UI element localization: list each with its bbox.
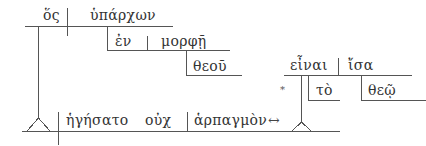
word-negation: οὐχ [145, 112, 171, 128]
subject-pedestal-left [27, 118, 39, 131]
word-prep-object: μορφῇ [161, 33, 206, 49]
word-genitive: θεοῦ [193, 58, 227, 74]
word-infinitive: εἶναι [290, 57, 328, 73]
word-main-verb: ἡγήσατο [66, 112, 128, 128]
infinitive-pedestal-left [292, 122, 302, 131]
subject-pedestal-right [39, 118, 51, 131]
word-object: ἁρπαγμὸν [194, 112, 267, 128]
word-participle: ὑπάρχων [90, 7, 156, 23]
double-arrow-icon: ↔ [268, 112, 280, 128]
word-preposition: ἐν [115, 33, 132, 49]
word-article: τὸ [316, 82, 333, 98]
ellipsis-marker: * [280, 85, 285, 95]
infinitive-pedestal-right [302, 122, 312, 131]
word-subject: ὅς [43, 7, 60, 23]
sentence-diagram: ὅς ὑπάρχων ἐν μορφῇ θεοῦ εἶναι ἴσα τὸ θε… [0, 0, 426, 146]
word-predicate: ἴσα [348, 57, 373, 73]
word-dative: θεῷ [368, 82, 396, 98]
